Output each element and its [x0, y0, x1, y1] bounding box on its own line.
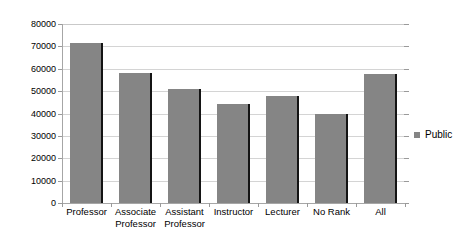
- x-axis-tick-label-line: Professor: [111, 218, 160, 230]
- legend-swatch-icon: [414, 132, 420, 138]
- y-axis-tick-label: 20000: [31, 154, 56, 163]
- bar[interactable]: [364, 74, 397, 203]
- x-axis-tick-label: Lecturer: [258, 206, 307, 218]
- x-axis-tick-label-line: Professor: [62, 206, 111, 218]
- bar[interactable]: [119, 73, 152, 203]
- x-axis-labels: ProfessorAssociateProfessorAssistantProf…: [62, 206, 405, 246]
- x-axis-tick-label-line: Associate: [111, 206, 160, 218]
- x-axis-tick: [405, 203, 406, 207]
- x-axis-tick-label-line: Instructor: [209, 206, 258, 218]
- y-axis-tick-label: 80000: [31, 20, 56, 29]
- y-axis-tick-label: 10000: [31, 177, 56, 186]
- x-axis-tick-label-line: Lecturer: [258, 206, 307, 218]
- x-axis-tick-label: Instructor: [209, 206, 258, 218]
- y-axis-labels: 0100002000030000400005000060000700008000…: [0, 24, 56, 203]
- x-axis-tick-label-line: Assistant: [160, 206, 209, 218]
- bar[interactable]: [266, 96, 299, 203]
- x-axis-tick-label-line: No Rank: [307, 206, 356, 218]
- x-axis-tick-label: AssistantProfessor: [160, 206, 209, 230]
- bar-slot: [62, 24, 111, 203]
- bars-layer: [62, 24, 405, 203]
- bar[interactable]: [168, 89, 201, 203]
- bar-slot: [356, 24, 405, 203]
- y-axis-tick-label: 0: [51, 199, 56, 208]
- x-axis-tick-label: All: [356, 206, 405, 218]
- x-axis-tick-label: No Rank: [307, 206, 356, 218]
- bar[interactable]: [70, 43, 103, 203]
- bar[interactable]: [217, 104, 250, 203]
- bar[interactable]: [315, 114, 348, 204]
- y-axis-tick-label: 70000: [31, 42, 56, 51]
- y-axis-tick-label: 30000: [31, 132, 56, 141]
- bar-slot: [209, 24, 258, 203]
- y-axis-tick-label: 40000: [31, 110, 56, 119]
- legend: Public: [414, 130, 452, 140]
- bar-slot: [258, 24, 307, 203]
- bar-chart: 0100002000030000400005000060000700008000…: [0, 0, 475, 249]
- bar-slot: [111, 24, 160, 203]
- bar-slot: [307, 24, 356, 203]
- x-axis-tick-label-line: Professor: [160, 218, 209, 230]
- x-axis-tick-label: AssociateProfessor: [111, 206, 160, 230]
- x-axis-tick-label-line: All: [356, 206, 405, 218]
- legend-label: Public: [425, 130, 452, 140]
- x-axis-tick-label: Professor: [62, 206, 111, 218]
- y-axis-tick-label: 50000: [31, 87, 56, 96]
- y-axis-tick-label: 60000: [31, 65, 56, 74]
- x-axis-line: [62, 203, 406, 204]
- bar-slot: [160, 24, 209, 203]
